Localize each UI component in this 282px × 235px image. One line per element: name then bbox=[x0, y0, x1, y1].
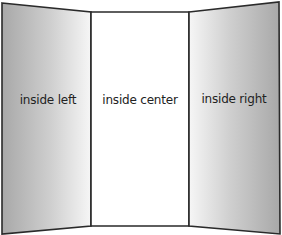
inside-left-label: inside left bbox=[20, 93, 77, 107]
inside-center-label: inside center bbox=[102, 93, 177, 107]
inside-right-label: inside right bbox=[201, 92, 266, 106]
trifold-diagram: inside left inside center inside right bbox=[0, 0, 282, 235]
center-panel bbox=[91, 12, 189, 226]
left-panel bbox=[2, 3, 91, 234]
right-panel bbox=[189, 2, 280, 234]
trifold-shapes bbox=[0, 0, 282, 235]
